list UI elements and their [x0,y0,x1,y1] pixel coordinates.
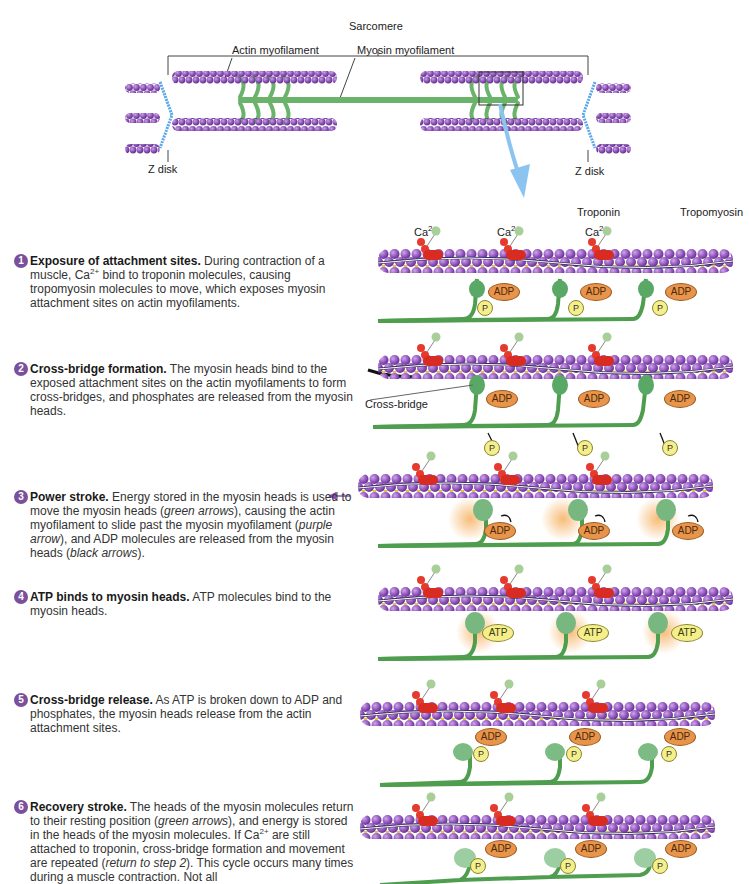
adp-molecule: ADP [569,728,601,746]
adp-molecule: ADP [575,840,607,858]
phosphate-molecule: P [652,858,668,874]
step-badge: 5 [14,693,28,707]
phosphate-molecule: P [470,858,486,874]
phosphate-molecule: P [477,300,493,316]
phosphate-molecule: P [662,440,678,456]
adp-molecule: ADP [475,728,507,746]
panel-3 [328,452,713,547]
panel-1 [378,227,733,322]
step-badge: 1 [14,254,28,268]
adp-molecule: ADP [578,522,610,540]
adp-molecule: ADP [580,283,612,301]
adp-molecule: ADP [488,283,520,301]
phosphate-molecule: P [577,440,593,456]
step-1: 1 Exposure of attachment sites. During c… [14,254,354,310]
atp-molecule: ATP [577,624,609,642]
step-badge: 3 [14,490,28,504]
panel-4 [378,565,733,660]
adp-molecule: ADP [672,522,704,540]
adp-molecule: ADP [486,390,518,408]
adp-molecule: ADP [664,728,696,746]
adp-molecule: ADP [665,283,697,301]
step-3: 3 Power stroke. Energy stored in the myo… [14,490,354,560]
step-6: 6 Recovery stroke. The heads of the myos… [14,800,354,884]
step-2: 2 Cross-bridge formation. The myosin hea… [14,362,354,418]
phosphate-molecule: P [566,746,582,762]
atp-molecule: ATP [671,624,703,642]
phosphate-molecule: P [652,300,668,316]
step-badge: 6 [14,800,28,814]
adp-molecule: ADP [485,840,517,858]
step-badge: 2 [14,362,28,376]
atp-molecule: ATP [482,624,514,642]
panel-5 [360,680,715,786]
adp-molecule: ADP [664,390,696,408]
adp-molecule: ADP [665,840,697,858]
phosphate-molecule: P [568,300,584,316]
step-4: 4 ATP binds to myosin heads. ATP molecul… [14,590,354,618]
phosphate-molecule: P [484,440,500,456]
adp-molecule: ADP [578,390,610,408]
step-badge: 4 [14,590,28,604]
phosphate-molecule: P [560,858,576,874]
phosphate-molecule: P [661,746,677,762]
phosphate-molecule: P [473,746,489,762]
adp-molecule: ADP [484,522,516,540]
step-5: 5 Cross-bridge release. As ATP is broken… [14,693,354,735]
